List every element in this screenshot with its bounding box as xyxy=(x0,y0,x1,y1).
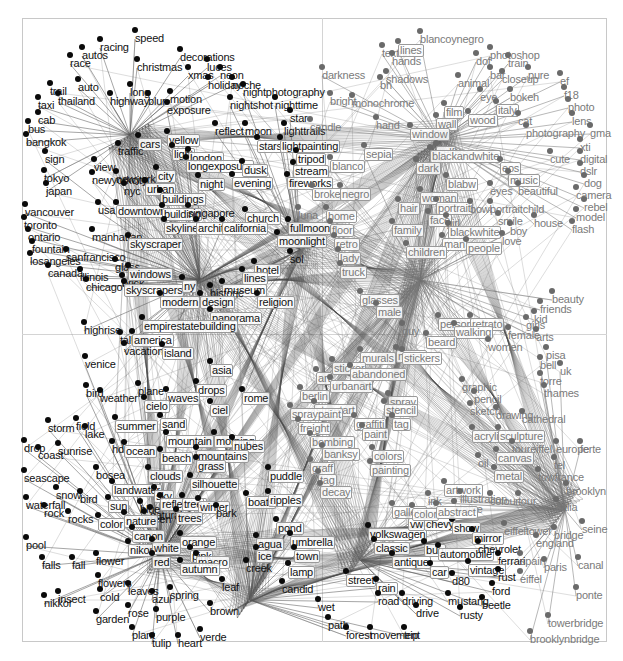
node-label: star xyxy=(290,113,308,124)
node-label: monochrome xyxy=(352,98,414,109)
node-label: sign xyxy=(45,154,64,165)
node-label: rust xyxy=(498,572,516,583)
node-label: towerbridge xyxy=(548,618,603,629)
node-label: sol xyxy=(290,254,303,265)
node-label: ponte xyxy=(576,590,603,601)
node-label: ny xyxy=(182,280,197,293)
node-label: hands xyxy=(392,56,421,67)
node-label: family xyxy=(392,224,424,237)
node-label: modern xyxy=(160,296,200,309)
node-label: trip xyxy=(404,630,418,641)
node-label: truck xyxy=(340,266,367,279)
node-label: bokeh xyxy=(510,92,539,103)
node-label: night xyxy=(198,178,225,191)
node-label: pencil xyxy=(474,394,502,405)
node-label: ciel xyxy=(210,404,230,417)
node-label: painting xyxy=(370,464,411,477)
node-label: fall xyxy=(72,560,85,571)
node-label: flower xyxy=(96,556,124,567)
node-label: colour xyxy=(490,496,519,507)
node-label: drops xyxy=(196,384,227,397)
node-label: house xyxy=(534,218,563,229)
node-label: island xyxy=(162,347,194,360)
node-label: garden xyxy=(96,614,129,625)
node-label: thames xyxy=(544,388,579,399)
node-label: animal xyxy=(458,78,489,89)
node-label: seine xyxy=(582,524,607,535)
node-label: blur xyxy=(148,96,166,107)
node-label: cielo xyxy=(144,400,170,413)
node-label: arts xyxy=(536,332,554,343)
node-label: forest xyxy=(346,630,372,641)
node-label: people xyxy=(466,242,502,255)
node-label: children xyxy=(406,246,447,259)
node-label: pure xyxy=(528,70,549,81)
node-label: oil xyxy=(478,458,488,469)
node-label: car xyxy=(430,566,449,579)
node-label: heart xyxy=(178,638,202,649)
node-label: reflect xyxy=(215,126,244,137)
node-label: blackandwhite xyxy=(430,150,501,163)
node-label: blanco xyxy=(330,160,365,173)
node-label: street xyxy=(346,574,376,587)
node-label: insect xyxy=(58,594,86,605)
node-label: banksy xyxy=(322,448,360,461)
node-label: candid xyxy=(282,584,313,595)
node-label: gma xyxy=(590,128,611,139)
node-label: lamp xyxy=(288,566,315,579)
node-label: spring xyxy=(170,590,199,601)
node-label: guy xyxy=(402,326,419,337)
node-label: vacation xyxy=(124,346,163,357)
node-label: ripples xyxy=(268,494,303,507)
node-label: beetle xyxy=(482,600,511,611)
node-label: silhouette xyxy=(190,478,239,491)
node-label: women xyxy=(488,342,522,353)
node-label: candle xyxy=(310,122,341,133)
node-label: town xyxy=(294,550,320,563)
node-label: d80 xyxy=(452,576,470,587)
node-label: religion xyxy=(257,296,295,309)
node-label: darkness xyxy=(322,70,365,81)
node-label: moonlight xyxy=(277,235,327,248)
node-label: nightshot xyxy=(230,100,273,111)
node-label: cathedral xyxy=(522,414,565,425)
node-label: lightpainting xyxy=(280,140,340,153)
node-label: highrise xyxy=(84,325,121,336)
node-label: traffic xyxy=(118,146,143,157)
node-label: hair xyxy=(398,202,420,215)
node-label: storm xyxy=(48,423,75,434)
node-label: grass xyxy=(196,460,226,473)
node-label: puddle xyxy=(268,470,304,483)
node-label: skyline xyxy=(164,222,200,235)
node-label: abstract xyxy=(436,506,478,519)
node-label: windows xyxy=(128,268,173,281)
node-label: mountain xyxy=(166,435,214,448)
node-label: graphic xyxy=(462,382,497,393)
node-label: tulip xyxy=(152,638,171,649)
node-label: vancouver xyxy=(25,207,74,218)
node-label: asia xyxy=(210,364,233,377)
node-label: cold xyxy=(100,592,119,603)
node-label: park xyxy=(216,508,237,519)
node-label: drive xyxy=(416,608,439,619)
node-label: sunrise xyxy=(58,446,92,457)
node-label: blabw xyxy=(446,178,478,191)
node-label: sepia xyxy=(364,148,393,161)
node-label: falls xyxy=(42,560,61,571)
node-label: rome xyxy=(242,392,270,405)
node-label: trees xyxy=(176,512,203,525)
node-label: dark xyxy=(416,162,441,175)
node-label: usa xyxy=(98,205,115,216)
node-label: cute xyxy=(550,154,570,165)
node-label: eyes xyxy=(490,186,512,197)
node-label: eiffeltower xyxy=(504,526,552,537)
node-label: bangkok xyxy=(26,137,66,148)
node-label: nyc xyxy=(124,186,141,197)
node-label: color xyxy=(98,518,125,531)
node-label: towfrance xyxy=(538,472,584,483)
node-label: leaf xyxy=(222,582,239,593)
node-label: bell xyxy=(540,360,556,371)
node-label: negro xyxy=(340,188,371,201)
node-label: race xyxy=(70,58,91,69)
node-label: chicago xyxy=(86,282,123,293)
